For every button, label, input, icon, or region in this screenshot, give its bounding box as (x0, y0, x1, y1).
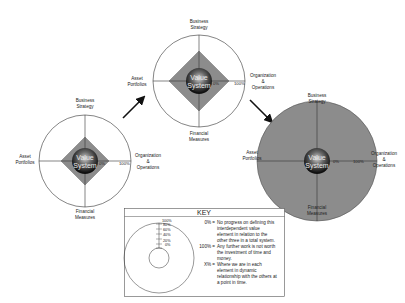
key-desc-0-line: interdependent value (217, 226, 260, 231)
label-ampersand: & (146, 159, 149, 164)
key-desc-x-line: element in dynamic (217, 268, 257, 273)
label-business: Business (76, 98, 95, 103)
center-label-line1: Value (308, 154, 325, 161)
label-financial: Financial (190, 131, 208, 136)
label-portfolios: Portfolios (15, 160, 35, 165)
stage-2-diagram: Value System 0% 100% Business Strategy A… (127, 19, 276, 142)
key-term-0: 0% = (204, 220, 215, 225)
label-strategy: Strategy (308, 99, 326, 104)
scale-max: 100% (119, 161, 130, 166)
label-business: Business (190, 19, 209, 24)
label-organization: Organization (250, 73, 276, 78)
key-legend: KEY 100% 80% 60% 40% 20% 0% 0% = No prog… (124, 209, 285, 297)
label-strategy: Strategy (190, 25, 208, 30)
center-label-line2: System (187, 82, 211, 90)
label-ampersand: & (261, 79, 264, 84)
label-organization: Organization (135, 153, 161, 158)
scale-min: 0% (213, 81, 219, 86)
value-system-sphere (304, 148, 330, 174)
key-desc-x-line: relationship with the others at (217, 274, 277, 279)
key-tick-80: 80% (163, 223, 171, 227)
key-tick-40: 40% (163, 233, 171, 237)
scale-max: 100% (234, 81, 245, 86)
center-label-line2: System (305, 162, 329, 170)
label-measures: Measures (189, 137, 210, 142)
progress-arrow-icon (123, 99, 142, 118)
key-desc-100-line: the investment of time and (217, 250, 271, 255)
label-measures: Measures (307, 211, 328, 216)
key-desc-x-line: a point in time. (217, 280, 247, 285)
key-desc-100-line: Any further work is not worth (217, 244, 276, 249)
value-system-sphere (186, 68, 212, 94)
key-desc-0-line: element in relation to the (217, 232, 268, 237)
label-portfolios: Portfolios (242, 156, 262, 161)
value-system-diagram: Value System 0% 100% Business Strategy A… (0, 0, 405, 303)
label-strategy: Strategy (76, 104, 94, 109)
key-tick-60: 60% (163, 228, 171, 232)
key-term-x: X% = (204, 262, 215, 267)
scale-min: 0% (333, 159, 339, 164)
center-label-line2: System (73, 162, 97, 170)
value-system-sphere (72, 148, 98, 174)
label-asset: Asset (131, 76, 143, 81)
stage-1-diagram: Value System 0% 100% Business Strategy A… (15, 98, 161, 220)
label-operations: Operations (373, 163, 396, 168)
label-financial: Financial (308, 205, 326, 210)
stage-3-diagram: Value System 0% 100% Business Strategy A… (242, 93, 397, 221)
key-desc-x-line: Where we are in each (217, 262, 262, 267)
label-asset: Asset (246, 150, 258, 155)
scale-max: 100% (353, 159, 364, 164)
progress-arrow-icon (250, 100, 270, 120)
label-operations: Operations (252, 85, 275, 90)
center-label-line1: Value (190, 74, 207, 81)
key-title: KEY (197, 209, 211, 216)
key-term-100: 100% = (199, 244, 215, 249)
center-label-line1: Value (76, 154, 93, 161)
key-desc-100-line: money. (217, 256, 232, 261)
key-desc-0-line: other three in a total system. (217, 238, 275, 243)
label-measures: Measures (75, 215, 96, 220)
label-operations: Operations (137, 165, 160, 170)
label-ampersand: & (382, 157, 385, 162)
scale-min: 0% (99, 161, 105, 166)
key-desc-0-line: No progress on defining this (217, 220, 275, 225)
label-business: Business (308, 93, 327, 98)
label-organization: Organization (371, 151, 397, 156)
label-financial: Financial (76, 209, 94, 214)
key-tick-0: 0% (165, 243, 171, 247)
label-asset: Asset (19, 154, 31, 159)
label-portfolios: Portfolios (127, 82, 147, 87)
